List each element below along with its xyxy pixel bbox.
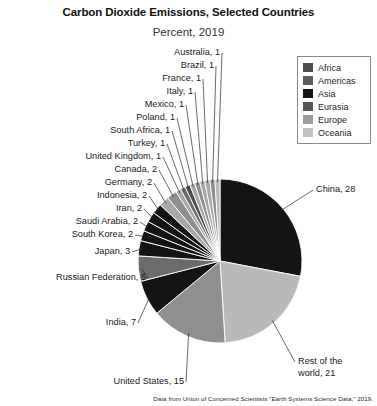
legend-item: Africa: [303, 61, 366, 74]
slice-label: Russian Federation, 5: [4, 272, 146, 283]
slice-label: Poland, 1: [63, 112, 175, 123]
slice-label: Italy, 1: [88, 86, 193, 97]
legend-item: Europe: [303, 113, 366, 126]
legend-swatch-icon: [303, 115, 313, 124]
legend-swatch-icon: [303, 128, 313, 137]
legend-item: Eurasia: [303, 100, 366, 113]
legend-item-label: Americas: [318, 76, 356, 86]
chart-legend: AfricaAmericasAsiaEurasiaEuropeOceania: [297, 56, 371, 144]
slice-label: Rest of the: [298, 356, 368, 367]
slice-label: Germany, 2: [38, 177, 152, 188]
legend-swatch-icon: [303, 102, 313, 111]
slice-label: Saudi Arabia, 2: [13, 216, 138, 227]
legend-item-label: Africa: [318, 63, 341, 73]
slice-label: Brazil, 1: [108, 60, 214, 71]
slice-label: United Kingdom, 1: [18, 151, 161, 162]
legend-item-label: Europe: [318, 115, 347, 125]
legend-swatch-icon: [303, 63, 313, 72]
slice-label: China, 28: [316, 184, 374, 195]
legend-item: Asia: [303, 87, 366, 100]
slice-label: Mexico, 1: [68, 99, 184, 110]
slice-label: Japan, 3: [28, 246, 130, 257]
slice-label: Iran, 2: [44, 203, 142, 214]
slice-label: United States, 15: [64, 376, 184, 387]
slice-label: Canada, 2: [48, 164, 157, 175]
legend-swatch-icon: [303, 76, 313, 85]
slice-label: South Africa, 1: [43, 125, 170, 136]
slice-label: France, 1: [88, 73, 201, 84]
slice-label: India, 7: [38, 317, 136, 328]
slice-label: South Korea, 2: [9, 229, 133, 240]
slice-label: Australia, 1: [108, 47, 220, 58]
legend-item-label: Eurasia: [318, 102, 349, 112]
legend-item: Oceania: [303, 126, 366, 139]
pie-slice: [220, 179, 302, 276]
legend-item-label: Asia: [318, 89, 336, 99]
legend-item: Americas: [303, 74, 366, 87]
slice-label: Indonesia, 2: [30, 190, 147, 201]
legend-item-label: Oceania: [318, 128, 352, 138]
slice-label: world, 21: [298, 368, 368, 379]
slice-label: Turkey, 1: [63, 138, 165, 149]
pie-chart-figure: Carbon Dioxide Emissions, Selected Count…: [0, 0, 377, 406]
legend-swatch-icon: [303, 89, 313, 98]
source-note: Data from Union of Concerned Scientists …: [153, 395, 373, 402]
